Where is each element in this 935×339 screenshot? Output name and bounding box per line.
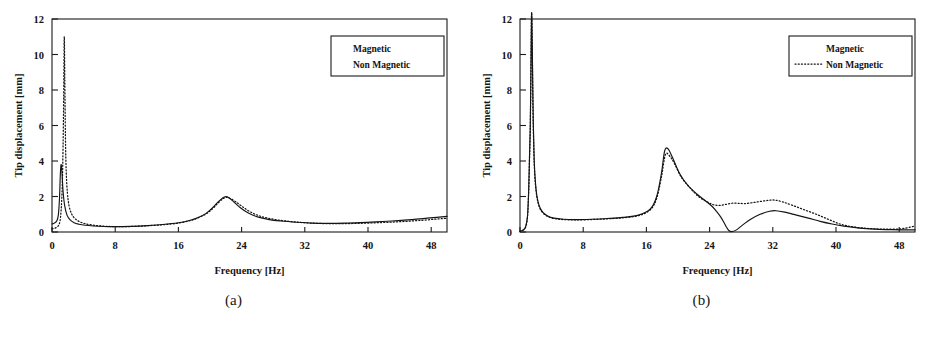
y-tick-label: 4 — [507, 156, 513, 167]
x-tick-label: 16 — [641, 240, 652, 251]
x-tick-label: 8 — [581, 240, 586, 251]
series-magnetic — [52, 164, 447, 226]
panel-b: 081624324048024681012Frequency [Hz]Tip d… — [468, 0, 935, 339]
y-tick-label: 0 — [39, 227, 44, 238]
y-tick-label: 4 — [39, 156, 45, 167]
x-tick-label: 24 — [704, 240, 715, 251]
y-tick-label: 6 — [507, 121, 512, 132]
x-tick-label: 32 — [768, 240, 779, 251]
y-tick-label: 8 — [39, 85, 44, 96]
y-tick-label: 10 — [34, 50, 45, 61]
panel-a-caption: (a) — [0, 292, 467, 309]
panel-a: 081624324048024681012Frequency [Hz]Tip d… — [0, 0, 467, 339]
y-tick-label: 2 — [507, 192, 512, 203]
y-tick-label: 0 — [507, 227, 512, 238]
y-tick-label: 10 — [502, 50, 513, 61]
y-axis-title: Tip displacement [mm] — [481, 73, 492, 177]
x-tick-label: 40 — [363, 240, 374, 251]
plot-b-svg: 081624324048024681012Frequency [Hz]Tip d… — [468, 0, 935, 292]
plot-a-svg: 081624324048024681012Frequency [Hz]Tip d… — [0, 0, 467, 292]
x-tick-label: 0 — [517, 240, 522, 251]
legend-box — [789, 36, 912, 76]
legend-box — [331, 36, 444, 76]
y-tick-label: 12 — [502, 14, 513, 25]
x-axis-title: Frequency [Hz] — [682, 265, 752, 276]
x-tick-label: 48 — [426, 240, 437, 251]
x-tick-label: 8 — [113, 240, 118, 251]
legend-label-non-magnetic: Non Magnetic — [826, 60, 883, 70]
x-axis-title: Frequency [Hz] — [214, 265, 284, 276]
x-tick-label: 0 — [49, 240, 54, 251]
legend-label-magnetic: Magnetic — [353, 44, 391, 54]
y-tick-label: 6 — [39, 121, 44, 132]
legend-label-non-magnetic: Non Magnetic — [353, 60, 410, 70]
x-tick-label: 40 — [831, 240, 842, 251]
y-axis-title: Tip displacement [mm] — [13, 73, 24, 177]
legend-label-magnetic: Magnetic — [826, 44, 864, 54]
y-tick-label: 12 — [34, 14, 45, 25]
x-tick-label: 16 — [173, 240, 184, 251]
x-tick-label: 48 — [894, 240, 905, 251]
figure-container: 081624324048024681012Frequency [Hz]Tip d… — [0, 0, 935, 339]
panel-b-caption: (b) — [468, 292, 935, 309]
y-tick-label: 2 — [39, 192, 44, 203]
y-tick-label: 8 — [507, 85, 512, 96]
x-tick-label: 24 — [236, 240, 247, 251]
x-tick-label: 32 — [300, 240, 311, 251]
